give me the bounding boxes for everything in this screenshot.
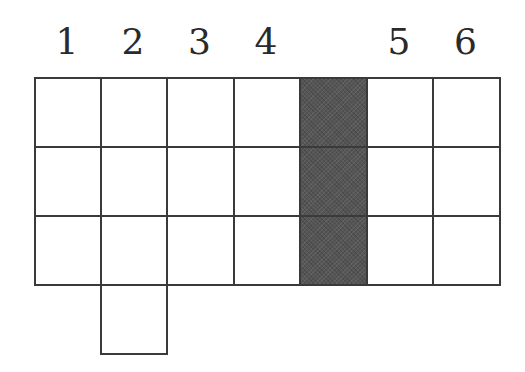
grid-cell: [432, 215, 501, 286]
grid-cell: [100, 215, 168, 286]
column-label-4: 4: [246, 22, 286, 62]
grid-cell: [432, 146, 501, 217]
grid-cell: [166, 77, 235, 148]
grid-cell: [166, 215, 235, 286]
grid-cell: [100, 77, 168, 148]
grid-cell: [233, 215, 301, 286]
grid-cell: [233, 77, 301, 148]
grid-cell: [34, 146, 102, 217]
shaded-cell: [299, 77, 368, 148]
grid-cell: [100, 284, 168, 355]
shaded-cell: [299, 215, 368, 286]
shaded-cell: [299, 146, 368, 217]
column-label-1: 1: [47, 22, 87, 62]
grid-cell: [233, 146, 301, 217]
column-label-2: 2: [113, 22, 153, 62]
grid-cell: [34, 215, 102, 286]
grid-cell: [432, 77, 501, 148]
column-label-3: 3: [180, 22, 220, 62]
grid-cell: [166, 146, 235, 217]
grid-cell: [100, 146, 168, 217]
grid-cell: [366, 146, 434, 217]
grid-cell: [366, 215, 434, 286]
column-label-5: 5: [379, 22, 419, 62]
column-label-6: 6: [446, 22, 486, 62]
grid-cell: [34, 77, 102, 148]
grid-cell: [366, 77, 434, 148]
